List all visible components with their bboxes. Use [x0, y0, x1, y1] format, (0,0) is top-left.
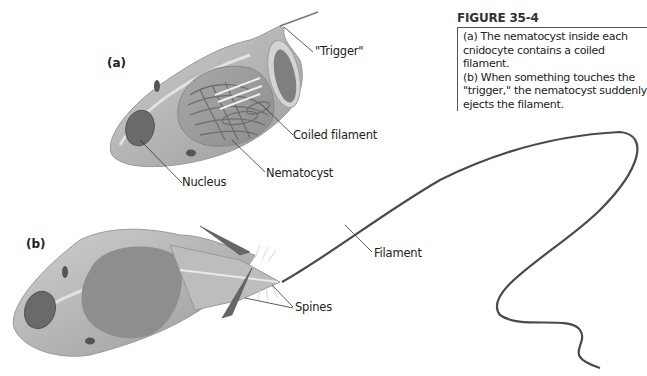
caption-body: (a) The nematocyst inside each cnidocyte… [457, 27, 647, 111]
caption-line: ejects the filament. [463, 98, 647, 112]
ejected-filament [282, 132, 637, 368]
callout-spines: Spines [295, 300, 332, 314]
cnidocyte-b [13, 226, 280, 356]
callout-filament: Filament [374, 246, 422, 260]
panel-b-label: (b) [26, 237, 46, 251]
figure-caption: FIGURE 35-4 (a) The nematocyst inside ea… [457, 11, 647, 111]
callout-nematocyst: Nematocyst [266, 166, 333, 180]
callout-trigger: "Trigger" [315, 44, 363, 58]
caption-line: (a) The nematocyst inside each [463, 30, 647, 44]
caption-line: cnidocyte contains a coiled filament. [463, 44, 647, 71]
callout-nucleus: Nucleus [182, 175, 226, 189]
callout-coiled-filament: Coiled filament [293, 128, 377, 142]
panel-a-label: (a) [107, 56, 126, 70]
cnidocyte-a [110, 12, 318, 167]
figure-title: FIGURE 35-4 [457, 11, 647, 25]
caption-line: "trigger," the nematocyst suddenly [463, 84, 647, 98]
trigger-hair [280, 12, 318, 26]
caption-line: (b) When something touches the [463, 71, 647, 85]
